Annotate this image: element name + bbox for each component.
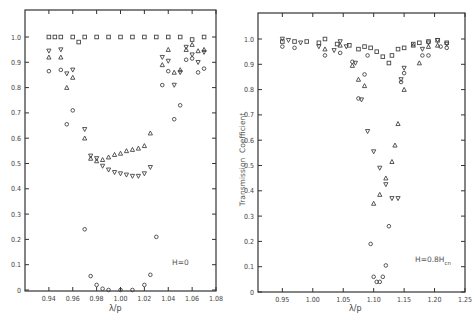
plot-frame <box>258 13 465 292</box>
y-tick-label: 0.9 <box>11 59 21 67</box>
y-tick-label: 0.9 <box>244 61 254 69</box>
y-tick-label: 0.7 <box>11 109 21 117</box>
series-up-triangle <box>323 43 440 205</box>
y-tick-label: 1.0 <box>244 36 254 44</box>
series-square <box>281 37 449 65</box>
x-tick-label: 0.94 <box>42 295 56 303</box>
series-square <box>47 35 206 44</box>
y-tick-label: 0.2 <box>244 238 254 246</box>
x-tick-label: 1.00 <box>306 296 320 304</box>
x-tick-label: 1.20 <box>428 296 442 304</box>
x-tick-label: 1.25 <box>458 296 472 304</box>
x-tick-label: 0.95 <box>275 296 289 304</box>
y-tick-label: 0 <box>250 289 254 297</box>
y-tick-label: 0.1 <box>11 261 21 269</box>
series-up-triangle <box>47 42 206 162</box>
x-tick-label: 1.00 <box>113 295 127 303</box>
right-x-axis-label: λ/p <box>349 304 362 313</box>
right-annotation-main: H=0.8H <box>415 255 445 264</box>
x-tick-label: 1.15 <box>397 296 411 304</box>
right-annotation-sub: cn <box>445 260 452 266</box>
y-tick-label: 0 <box>17 287 21 295</box>
y-tick-label: 0.1 <box>244 263 254 271</box>
y-tick-label: 0.3 <box>11 211 21 219</box>
y-tick-label: 0.5 <box>11 160 21 168</box>
x-tick-label: 0.98 <box>90 295 104 303</box>
y-tick-label: 1.0 <box>11 34 21 42</box>
x-tick-label: 1.04 <box>161 295 175 303</box>
series-circle <box>281 45 449 284</box>
x-tick-label: 1.05 <box>336 296 350 304</box>
x-tick-label: 1.02 <box>137 295 151 303</box>
x-tick-label: 1.08 <box>209 295 223 303</box>
series-down-triangle <box>280 37 449 200</box>
x-tick-label: 1.10 <box>367 296 381 304</box>
y-tick-label: 0.6 <box>11 135 21 143</box>
right-annotation: H=0.8Hcn <box>415 255 451 266</box>
x-tick-label: 1.06 <box>185 295 199 303</box>
y-tick-label: 0.4 <box>11 185 21 193</box>
left-annotation: H=0 <box>172 258 189 267</box>
y-tick-label: 0.2 <box>11 236 21 244</box>
x-tick-label: 0.96 <box>66 295 80 303</box>
left-plot-h0: 0.940.960.981.001.021.041.061.0800.10.20… <box>11 10 223 303</box>
y-tick-label: 0.8 <box>11 84 21 92</box>
right-y-axis-label: Transmission Coefficient <box>238 90 247 230</box>
left-x-axis-label: λ/p <box>109 304 122 313</box>
series-circle <box>47 57 206 292</box>
series-down-triangle <box>47 45 206 178</box>
